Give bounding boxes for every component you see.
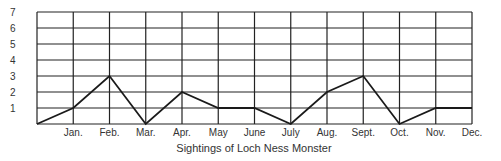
x-tick-label: Dec. <box>462 127 483 138</box>
line-chart: 1234567 Jan.Feb.Mar.Apr.MayJuneJulyAug.S… <box>0 0 501 161</box>
y-axis-ticks: 1234567 <box>10 7 16 114</box>
x-tick-label: Mar. <box>136 127 155 138</box>
y-tick-label: 4 <box>10 55 16 66</box>
x-tick-label: June <box>244 127 266 138</box>
y-tick-label: 7 <box>10 7 16 18</box>
x-tick-label: Oct. <box>390 127 408 138</box>
y-tick-label: 1 <box>10 103 16 114</box>
x-tick-label: Apr. <box>173 127 191 138</box>
x-tick-label: Jan. <box>64 127 83 138</box>
y-tick-label: 3 <box>10 71 16 82</box>
x-tick-label: Sept. <box>352 127 375 138</box>
y-tick-label: 2 <box>10 87 16 98</box>
x-tick-label: Aug. <box>317 127 338 138</box>
y-tick-label: 5 <box>10 39 16 50</box>
chart-title: Sightings of Loch Ness Monster <box>176 142 332 154</box>
x-tick-label: Feb. <box>99 127 119 138</box>
x-tick-label: May <box>209 127 228 138</box>
x-axis-ticks: Jan.Feb.Mar.Apr.MayJuneJulyAug.Sept.Oct.… <box>64 127 482 138</box>
y-tick-label: 6 <box>10 23 16 34</box>
x-tick-label: Nov. <box>426 127 446 138</box>
x-tick-label: July <box>282 127 300 138</box>
